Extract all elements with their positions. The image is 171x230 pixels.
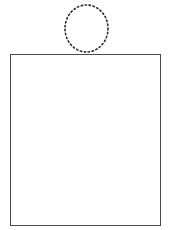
diagram-canvas [0, 0, 171, 230]
diagram-svg [0, 0, 171, 230]
grid-rectangle [11, 55, 161, 226]
